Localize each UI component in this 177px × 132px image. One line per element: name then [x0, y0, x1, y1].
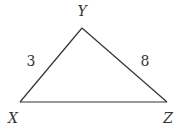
vertex-label-x: X	[7, 110, 19, 126]
side-label-xy: 3	[27, 53, 36, 69]
triangle-diagram: Y X Z 3 8	[0, 0, 177, 132]
vertex-label-y: Y	[77, 3, 88, 19]
vertex-label-z: Z	[162, 110, 173, 126]
side-label-yz: 8	[141, 53, 150, 69]
side-yz	[82, 28, 167, 102]
